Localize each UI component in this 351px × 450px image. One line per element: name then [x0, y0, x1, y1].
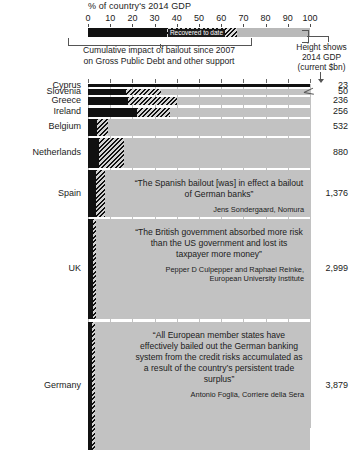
bar-row-belgium — [88, 119, 310, 136]
key-caption-line-1: Cumulative impact of bailout since 2007 — [83, 45, 235, 55]
quote-source-spain: Jens Sondergaard, Nomura — [134, 205, 304, 214]
recovered-segment-germany — [92, 322, 95, 450]
gdp-value-netherlands: 880 — [312, 147, 348, 157]
recovered-segment-netherlands — [99, 138, 123, 168]
impact-segment-spain — [88, 170, 96, 217]
impact-segment-netherlands — [88, 138, 99, 168]
category-label-uk: UK — [68, 263, 81, 273]
recovered-segment-slovenia — [126, 89, 162, 95]
quote-source-uk: Pepper D Culpepper and Raphael Reinke, E… — [134, 265, 304, 283]
axis-tick-mark-90 — [288, 24, 289, 27]
axis-tick-mark-100 — [310, 24, 311, 27]
recovered-segment-greece — [128, 97, 177, 105]
category-label-greece: Greece — [51, 95, 81, 105]
bar-row-netherlands — [88, 138, 310, 168]
quote-text-germany: “All European member states have effecti… — [135, 330, 302, 384]
impact-segment-belgium — [88, 119, 97, 136]
key-example-bar: Recovered to date — [88, 28, 310, 37]
plot-tick-40 — [177, 79, 178, 83]
axis-tick-mark-0 — [88, 24, 89, 27]
recovered-segment-spain — [96, 170, 105, 217]
axis-tick-label-50: 50 — [194, 13, 204, 23]
axis-tick-label-80: 80 — [261, 13, 271, 23]
gdp-value-belgium: 532 — [312, 121, 348, 131]
plot-tick-30 — [155, 79, 156, 83]
gridline-100 — [310, 84, 311, 428]
plot-tick-100 — [310, 79, 311, 83]
gdp-value-germany: 3,879 — [312, 380, 348, 390]
axis-tick-mark-10 — [110, 24, 111, 27]
plot-tick-10 — [110, 79, 111, 83]
plot-tick-50 — [199, 79, 200, 83]
axis-tick-label-90: 90 — [283, 13, 293, 23]
bar-row-cyprus — [88, 84, 310, 87]
height-note-line-3: (current $bn) — [298, 62, 346, 72]
axis-tick-label-60: 60 — [216, 13, 226, 23]
axis-tick-label-20: 20 — [127, 13, 137, 23]
bar-row-slovenia — [88, 89, 310, 95]
impact-segment-slovenia — [88, 89, 126, 95]
key-height-note: Height shows 2014 GDP (current $bn) — [292, 42, 351, 72]
height-note-line-2: 2014 GDP — [302, 52, 341, 62]
key-axis: 0102030405060708090100 — [88, 13, 310, 26]
bar-row-ireland — [88, 108, 310, 117]
plot-tick-20 — [132, 79, 133, 83]
axis-tick-mark-40 — [177, 24, 178, 27]
plot-tick-0 — [88, 79, 89, 83]
quote-spain: “The Spanish bailout [was] in effect a b… — [134, 178, 304, 214]
impact-segment-ireland — [88, 108, 137, 117]
recovered-segment-ireland — [137, 108, 170, 117]
plot-tick-90 — [288, 79, 289, 83]
axis-tick-label-10: 10 — [105, 13, 115, 23]
axis-tick-mark-80 — [266, 24, 267, 27]
key-recovered-label: Recovered to date — [168, 29, 225, 37]
key-impact-segment — [88, 28, 167, 37]
key-caption-line-2: on Gross Public Debt and other support — [84, 56, 235, 66]
axis-tick-mark-50 — [199, 24, 200, 27]
height-note-line-1: Height shows — [296, 42, 346, 52]
quote-text-spain: “The Spanish bailout [was] in effect a b… — [135, 178, 303, 199]
axis-tick-mark-20 — [132, 24, 133, 27]
category-label-spain: Spain — [58, 188, 81, 198]
key-impact-caption: Cumulative impact of bailout since 2007 … — [28, 45, 290, 66]
quote-uk: “The British government absorbed more ri… — [134, 227, 304, 283]
impact-segment-cyprus — [88, 84, 310, 87]
gdp-value-uk: 2,999 — [312, 263, 348, 273]
gdp-value-ireland: 256 — [312, 106, 348, 116]
gdp-value-spain: 1,376 — [312, 188, 348, 198]
axis-tick-label-70: 70 — [238, 13, 248, 23]
category-labels: CyprusSloveniaGreeceIrelandBelgiumNether… — [0, 84, 85, 428]
chart-axis-title: % of country's 2014 GDP — [88, 1, 191, 11]
plot-tick-80 — [266, 79, 267, 83]
quote-source-germany: Antonio Foglia, Corriere della Sera — [134, 390, 304, 399]
impact-segment-greece — [88, 97, 128, 105]
plot-tick-70 — [243, 79, 244, 83]
bar-row-greece — [88, 97, 310, 105]
recovered-segment-uk — [93, 219, 96, 319]
recovered-segment-belgium — [97, 119, 108, 136]
category-label-belgium: Belgium — [48, 121, 81, 131]
axis-tick-label-40: 40 — [172, 13, 182, 23]
category-label-germany: Germany — [44, 380, 81, 390]
quote-text-uk: “The British government absorbed more ri… — [135, 227, 303, 259]
category-label-ireland: Ireland — [53, 106, 81, 116]
key-height-leader — [307, 36, 329, 37]
axis-tick-label-0: 0 — [85, 13, 90, 23]
axis-tick-mark-70 — [243, 24, 244, 27]
axis-tick-label-30: 30 — [150, 13, 160, 23]
axis-tick-mark-60 — [221, 24, 222, 27]
gdp-value-labels: 23502362565328801,3762,9993,879 — [312, 84, 351, 428]
category-label-netherlands: Netherlands — [32, 147, 81, 157]
plot-area: “The Spanish bailout [was] in effect a b… — [88, 84, 310, 428]
axis-tick-mark-30 — [155, 24, 156, 27]
axis-tick-label-100: 100 — [302, 13, 317, 23]
gdp-value-greece: 236 — [312, 95, 348, 105]
quote-germany: “All European member states have effecti… — [134, 330, 304, 399]
plot-tick-60 — [221, 79, 222, 83]
